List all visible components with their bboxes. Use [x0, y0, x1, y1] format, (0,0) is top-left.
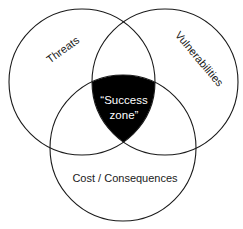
- success-zone-line-1: “Success: [100, 93, 147, 108]
- success-zone-line-2: zone”: [100, 108, 147, 123]
- cost-consequences-label: Cost / Consequences: [72, 173, 177, 184]
- success-zone-label: “Success zone”: [100, 93, 147, 123]
- venn-diagram: Threats Vulnerabilities Cost / Consequen…: [0, 0, 243, 229]
